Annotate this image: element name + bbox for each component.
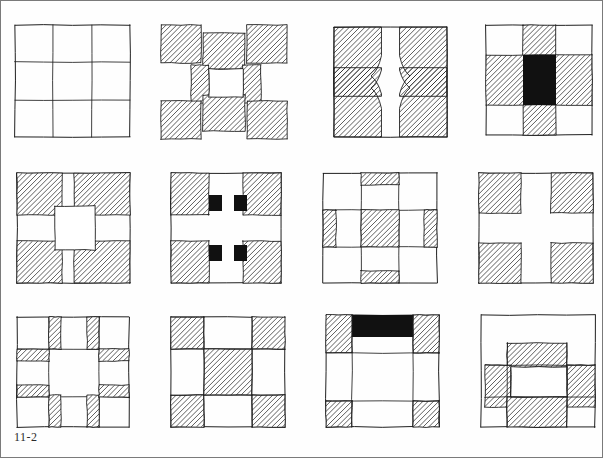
ink-line bbox=[49, 349, 50, 361]
black-patch bbox=[234, 245, 247, 261]
ink-line bbox=[252, 427, 285, 428]
curved-hatched-corner bbox=[333, 27, 448, 137]
ink-line bbox=[87, 317, 99, 318]
curved-hatched-corner bbox=[333, 27, 448, 137]
ink-line bbox=[17, 317, 129, 318]
quilt-block-10-classic-nine-patch bbox=[170, 316, 284, 426]
ink-line bbox=[17, 397, 49, 398]
hatched-patch bbox=[511, 173, 594, 213]
ink-line bbox=[15, 25, 130, 26]
block-drawing bbox=[485, 24, 593, 136]
block-drawing bbox=[325, 314, 440, 428]
ink-line bbox=[171, 241, 209, 242]
block-drawing bbox=[333, 26, 448, 138]
hatched-patch bbox=[324, 210, 438, 247]
ink-line bbox=[361, 271, 400, 272]
block-drawing bbox=[14, 24, 131, 138]
ink-line bbox=[209, 69, 210, 97]
ink-line bbox=[17, 385, 18, 398]
ink-line bbox=[161, 25, 200, 26]
block-grid bbox=[0, 0, 604, 459]
ink-line bbox=[161, 101, 201, 102]
quilt-block-4-hatched-cross-black-centre bbox=[485, 24, 591, 134]
ink-line bbox=[521, 173, 522, 213]
ink-line bbox=[479, 173, 522, 174]
hatched-patch bbox=[17, 395, 122, 427]
ink-line bbox=[399, 210, 400, 247]
ink-line bbox=[171, 241, 172, 283]
ink-line bbox=[129, 385, 130, 397]
ink-line bbox=[201, 101, 202, 139]
hatched-patch bbox=[55, 395, 130, 427]
hatched-patch bbox=[170, 395, 265, 427]
ink-line bbox=[281, 241, 282, 282]
ink-line bbox=[485, 397, 595, 398]
ink-line bbox=[479, 213, 521, 214]
ink-line bbox=[326, 353, 440, 354]
ink-line bbox=[171, 427, 204, 428]
quilt-block-7-hatched-centre-with-edge-bars bbox=[322, 172, 436, 282]
ink-line bbox=[17, 173, 62, 174]
ink-line bbox=[523, 25, 556, 26]
ink-line bbox=[17, 361, 49, 362]
quilt-block-3-curved-cross-block bbox=[333, 26, 446, 136]
ink-line bbox=[247, 101, 248, 139]
ink-line bbox=[481, 315, 594, 316]
white-patch bbox=[511, 367, 567, 397]
ink-line bbox=[15, 62, 130, 63]
ink-line bbox=[55, 250, 95, 251]
hatched-patch bbox=[55, 317, 130, 349]
ink-line bbox=[130, 173, 131, 215]
ink-line bbox=[130, 25, 131, 137]
ink-line bbox=[49, 385, 50, 397]
ink-line bbox=[485, 365, 486, 407]
ink-line bbox=[551, 173, 592, 174]
ink-line bbox=[17, 317, 18, 428]
ink-line bbox=[247, 139, 287, 140]
ink-line bbox=[481, 315, 482, 427]
ink-line bbox=[285, 317, 286, 349]
hatched-patch bbox=[17, 317, 122, 349]
ink-line bbox=[252, 317, 285, 318]
ink-line bbox=[424, 210, 425, 247]
hatched-patch bbox=[220, 317, 286, 349]
black-patch bbox=[234, 195, 247, 211]
quilt-block-5-hatched-corners-white-cross-square bbox=[16, 172, 129, 282]
ink-line bbox=[74, 283, 130, 284]
hatched-patch bbox=[387, 401, 440, 427]
block-drawing bbox=[16, 316, 130, 428]
figure-label: 11-2 bbox=[14, 430, 38, 445]
hatched-patch bbox=[170, 317, 265, 349]
ink-line bbox=[161, 139, 201, 140]
ink-line bbox=[15, 25, 16, 137]
ink-line bbox=[17, 349, 18, 361]
hatched-patch bbox=[349, 271, 419, 283]
ink-line bbox=[171, 395, 172, 427]
quilt-block-8-hatched-corners-plain-white-cross bbox=[478, 172, 592, 282]
block-drawing bbox=[170, 172, 282, 284]
black-patch bbox=[209, 245, 222, 261]
quilt-block-1-plain-nine-patch-grid bbox=[14, 24, 129, 136]
block-drawing bbox=[170, 316, 286, 428]
ink-line bbox=[191, 65, 192, 103]
hatched-patch bbox=[87, 349, 130, 361]
ink-line bbox=[17, 241, 18, 282]
black-patch bbox=[209, 195, 222, 211]
black-patch bbox=[523, 55, 556, 105]
ink-line bbox=[61, 395, 62, 427]
white-patch bbox=[55, 206, 95, 250]
hatched-patch bbox=[220, 395, 286, 427]
ink-line bbox=[17, 427, 129, 428]
block-drawing bbox=[322, 172, 438, 284]
ink-line bbox=[326, 315, 352, 316]
ink-line bbox=[361, 173, 362, 185]
block-drawing bbox=[16, 172, 131, 284]
block-drawing bbox=[480, 314, 596, 428]
quilt-block-12-offset-hatched-ring-block bbox=[480, 314, 594, 426]
ink-line bbox=[99, 397, 129, 398]
hatched-patch bbox=[349, 173, 418, 185]
curved-hatched-corner bbox=[333, 27, 448, 137]
hatched-patch bbox=[170, 349, 286, 396]
ink-line bbox=[287, 101, 288, 139]
hatched-patch bbox=[16, 349, 69, 361]
